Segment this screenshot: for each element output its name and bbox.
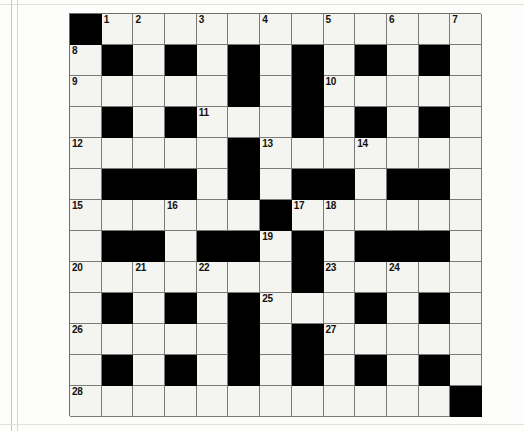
grid-open-cell[interactable] [197, 45, 229, 76]
grid-open-cell[interactable] [165, 324, 197, 355]
grid-open-cell[interactable] [355, 14, 387, 45]
grid-open-cell[interactable] [387, 76, 419, 107]
grid-open-cell[interactable] [165, 14, 197, 45]
grid-open-cell[interactable] [165, 76, 197, 107]
grid-open-cell[interactable]: 14 [355, 138, 387, 169]
grid-open-cell[interactable] [450, 45, 482, 76]
grid-open-cell[interactable] [165, 138, 197, 169]
grid-open-cell[interactable]: 12 [70, 138, 102, 169]
grid-open-cell[interactable] [165, 262, 197, 293]
grid-open-cell[interactable] [292, 138, 324, 169]
grid-open-cell[interactable] [70, 169, 102, 200]
grid-open-cell[interactable] [324, 107, 356, 138]
grid-open-cell[interactable] [292, 293, 324, 324]
grid-open-cell[interactable] [228, 262, 260, 293]
grid-open-cell[interactable] [197, 293, 229, 324]
grid-open-cell[interactable] [102, 200, 134, 231]
grid-open-cell[interactable] [355, 324, 387, 355]
grid-open-cell[interactable]: 23 [324, 262, 356, 293]
grid-open-cell[interactable] [165, 386, 197, 417]
grid-open-cell[interactable] [387, 45, 419, 76]
grid-open-cell[interactable] [133, 324, 165, 355]
grid-open-cell[interactable] [324, 355, 356, 386]
grid-open-cell[interactable] [102, 262, 134, 293]
grid-open-cell[interactable] [355, 262, 387, 293]
grid-open-cell[interactable] [387, 200, 419, 231]
grid-open-cell[interactable]: 18 [324, 200, 356, 231]
grid-open-cell[interactable]: 22 [197, 262, 229, 293]
grid-open-cell[interactable] [324, 231, 356, 262]
grid-open-cell[interactable] [450, 107, 482, 138]
grid-open-cell[interactable] [419, 386, 451, 417]
grid-open-cell[interactable] [260, 386, 292, 417]
grid-open-cell[interactable]: 4 [260, 14, 292, 45]
grid-open-cell[interactable] [228, 200, 260, 231]
grid-open-cell[interactable] [450, 262, 482, 293]
grid-open-cell[interactable]: 26 [70, 324, 102, 355]
grid-open-cell[interactable] [324, 293, 356, 324]
grid-open-cell[interactable]: 8 [70, 45, 102, 76]
grid-open-cell[interactable] [387, 355, 419, 386]
grid-open-cell[interactable] [450, 324, 482, 355]
grid-open-cell[interactable]: 11 [197, 107, 229, 138]
grid-open-cell[interactable]: 5 [324, 14, 356, 45]
grid-open-cell[interactable] [260, 76, 292, 107]
grid-open-cell[interactable]: 19 [260, 231, 292, 262]
grid-open-cell[interactable] [133, 76, 165, 107]
grid-open-cell[interactable] [197, 76, 229, 107]
grid-open-cell[interactable] [324, 138, 356, 169]
grid-open-cell[interactable]: 24 [387, 262, 419, 293]
grid-open-cell[interactable] [450, 200, 482, 231]
grid-open-cell[interactable] [324, 386, 356, 417]
grid-open-cell[interactable] [355, 386, 387, 417]
grid-open-cell[interactable] [228, 386, 260, 417]
grid-open-cell[interactable] [70, 293, 102, 324]
grid-open-cell[interactable] [197, 200, 229, 231]
grid-open-cell[interactable] [260, 107, 292, 138]
grid-open-cell[interactable] [450, 76, 482, 107]
grid-open-cell[interactable] [419, 200, 451, 231]
grid-open-cell[interactable] [419, 262, 451, 293]
grid-open-cell[interactable] [197, 355, 229, 386]
grid-open-cell[interactable] [450, 293, 482, 324]
grid-open-cell[interactable] [70, 231, 102, 262]
grid-open-cell[interactable]: 17 [292, 200, 324, 231]
grid-open-cell[interactable]: 7 [450, 14, 482, 45]
grid-open-cell[interactable] [260, 45, 292, 76]
grid-open-cell[interactable] [102, 76, 134, 107]
grid-open-cell[interactable] [133, 386, 165, 417]
grid-open-cell[interactable] [102, 324, 134, 355]
grid-open-cell[interactable]: 21 [133, 262, 165, 293]
grid-open-cell[interactable] [197, 324, 229, 355]
grid-open-cell[interactable] [419, 324, 451, 355]
grid-open-cell[interactable] [228, 14, 260, 45]
grid-open-cell[interactable] [197, 386, 229, 417]
grid-open-cell[interactable] [133, 355, 165, 386]
grid-open-cell[interactable] [387, 324, 419, 355]
grid-open-cell[interactable]: 10 [324, 76, 356, 107]
grid-open-cell[interactable] [324, 45, 356, 76]
grid-open-cell[interactable] [133, 200, 165, 231]
grid-open-cell[interactable] [387, 138, 419, 169]
grid-open-cell[interactable] [292, 386, 324, 417]
grid-open-cell[interactable]: 15 [70, 200, 102, 231]
grid-open-cell[interactable] [387, 386, 419, 417]
grid-open-cell[interactable]: 27 [324, 324, 356, 355]
grid-open-cell[interactable] [260, 355, 292, 386]
grid-open-cell[interactable]: 3 [197, 14, 229, 45]
grid-open-cell[interactable] [292, 14, 324, 45]
grid-open-cell[interactable] [70, 107, 102, 138]
grid-open-cell[interactable] [355, 169, 387, 200]
grid-open-cell[interactable] [419, 14, 451, 45]
grid-open-cell[interactable] [102, 386, 134, 417]
grid-open-cell[interactable]: 1 [102, 14, 134, 45]
grid-open-cell[interactable] [355, 76, 387, 107]
grid-open-cell[interactable] [260, 169, 292, 200]
grid-open-cell[interactable] [450, 231, 482, 262]
grid-open-cell[interactable]: 16 [165, 200, 197, 231]
crossword-grid[interactable]: 1234567891011121314151617181920212223242… [69, 13, 481, 416]
grid-open-cell[interactable] [133, 293, 165, 324]
grid-open-cell[interactable] [133, 45, 165, 76]
grid-open-cell[interactable]: 28 [70, 386, 102, 417]
grid-open-cell[interactable] [419, 138, 451, 169]
